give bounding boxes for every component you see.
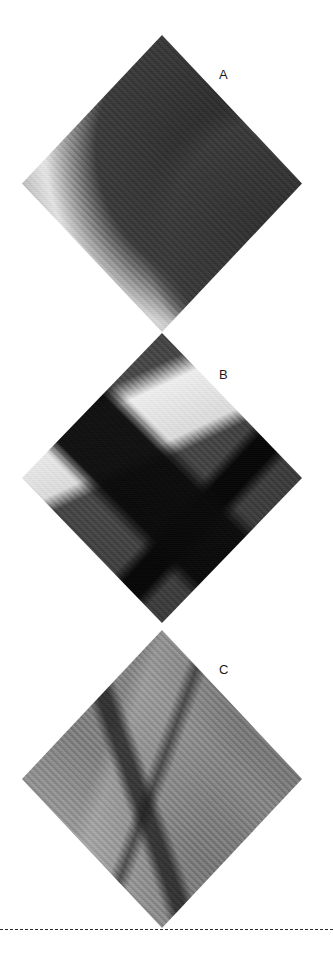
panel-a-label: A: [219, 68, 228, 81]
panel-b-label: B: [219, 368, 228, 381]
panel-a-diamond-image: [22, 35, 302, 332]
panel-b-image-clip: [22, 333, 302, 623]
panel-a-photo: [22, 35, 302, 332]
panel-c-label: C: [219, 663, 229, 676]
panel-b-photo: [22, 333, 302, 623]
panel-c-image-clip: [22, 630, 302, 928]
panel-c-diamond-image: [22, 630, 302, 928]
figure-panel-c: C: [0, 630, 333, 930]
figure-root: A B C: [0, 0, 333, 955]
panel-b-diamond-image: [22, 333, 302, 623]
figure-panel-a: A: [0, 0, 333, 333]
panel-c-photo: [22, 630, 302, 928]
figure-bottom-dashed-rule: [0, 929, 333, 930]
figure-panel-b: B: [0, 333, 333, 625]
panel-a-image-clip: [22, 35, 302, 332]
